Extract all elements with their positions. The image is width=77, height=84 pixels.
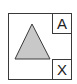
label-box-x: X [52, 59, 72, 80]
label-a: A [57, 16, 67, 31]
label-x: X [57, 62, 67, 77]
label-box-a: A [52, 13, 72, 34]
